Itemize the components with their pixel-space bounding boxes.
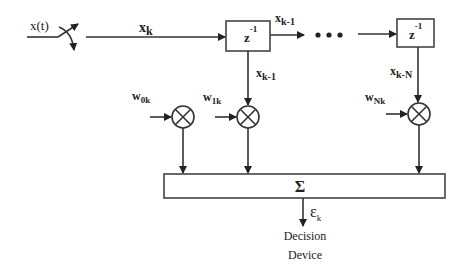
- filter-diagram: x(t) xk z-1 xk-1 z-1 xk-1 xk-N w0k w1k w…: [0, 0, 467, 269]
- weight-label-0: w0k: [132, 89, 150, 105]
- delay-block-n: z-1: [397, 19, 434, 47]
- decision-line1: Decision: [284, 229, 327, 243]
- decision-line2: Device: [288, 248, 322, 262]
- summer-block: Σ: [164, 174, 445, 198]
- ellipsis-dots: [315, 32, 342, 37]
- delay-block-1: z-1: [226, 21, 270, 51]
- xk-label: xk: [139, 20, 153, 38]
- svg-text:Σ: Σ: [295, 178, 305, 195]
- multiplier-0: [172, 106, 194, 128]
- weight-label-n: wNk: [365, 90, 385, 106]
- error-label: εk: [310, 203, 322, 223]
- xk-1-tap-label: xk-1: [256, 66, 276, 82]
- input-label: x(t): [30, 18, 49, 33]
- multiplier-1: [237, 106, 259, 128]
- weight-label-1: w1k: [203, 90, 221, 106]
- switch-rotation-arrow: [59, 27, 74, 50]
- xk-1-out-label: xk-1: [275, 11, 295, 27]
- xk-n-tap-label: xk-N: [390, 64, 413, 80]
- switch-arm: [58, 24, 78, 37]
- multiplier-n: [408, 103, 430, 125]
